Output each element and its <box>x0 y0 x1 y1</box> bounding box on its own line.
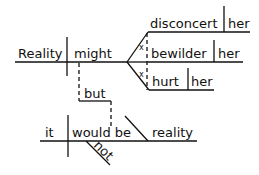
subject-reality: Reality <box>18 46 63 61</box>
fork-lower <box>127 62 149 90</box>
object-her-3: her <box>191 74 213 89</box>
verb-disconcert: disconcert <box>150 16 218 31</box>
verb-hurt: hurt <box>152 74 179 89</box>
object-her-1: her <box>228 16 250 31</box>
conjunction-but: but <box>84 86 106 101</box>
sentence-diagram: Reality might x x disconcert her bewilde… <box>0 0 259 175</box>
connector-x-1: x <box>139 43 144 52</box>
object-her-2: her <box>218 46 240 61</box>
verb-might: might <box>74 46 112 61</box>
fork-upper <box>127 32 148 62</box>
connector-x-2: x <box>139 70 144 79</box>
subject-it: it <box>45 125 54 140</box>
predicate-reality: reality <box>152 125 193 140</box>
verb-bewilder: bewilder <box>151 46 207 61</box>
